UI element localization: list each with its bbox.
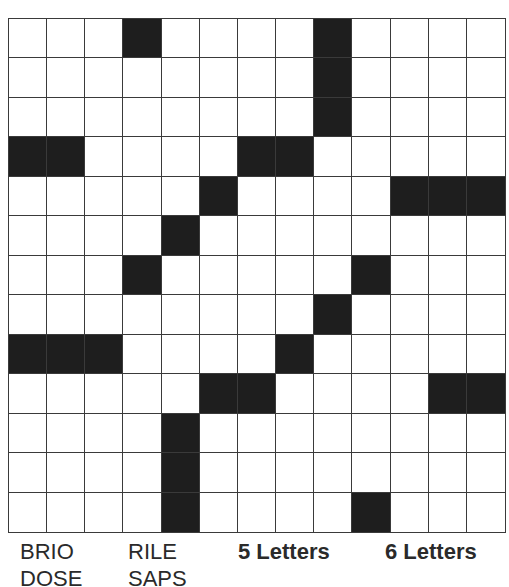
grid-cell[interactable] <box>467 58 505 97</box>
grid-cell[interactable] <box>9 58 47 97</box>
grid-cell[interactable] <box>352 216 390 255</box>
grid-cell[interactable] <box>162 58 200 97</box>
grid-cell[interactable] <box>123 58 161 97</box>
grid-cell[interactable] <box>85 19 123 58</box>
grid-cell[interactable] <box>352 58 390 97</box>
grid-cell[interactable] <box>314 453 352 492</box>
grid-cell[interactable] <box>352 374 390 413</box>
grid-cell[interactable] <box>276 295 314 334</box>
grid-cell[interactable] <box>47 98 85 137</box>
grid-cell[interactable] <box>238 453 276 492</box>
grid-cell[interactable] <box>238 19 276 58</box>
grid-cell[interactable] <box>391 58 429 97</box>
grid-cell[interactable] <box>85 414 123 453</box>
grid-cell[interactable] <box>85 177 123 216</box>
grid-cell[interactable] <box>352 98 390 137</box>
grid-cell[interactable] <box>276 177 314 216</box>
grid-cell[interactable] <box>162 335 200 374</box>
grid-cell[interactable] <box>276 493 314 532</box>
grid-cell[interactable] <box>352 137 390 176</box>
grid-cell[interactable] <box>467 19 505 58</box>
grid-cell[interactable] <box>238 177 276 216</box>
grid-cell[interactable] <box>467 335 505 374</box>
grid-cell[interactable] <box>85 374 123 413</box>
grid-cell[interactable] <box>200 335 238 374</box>
grid-cell[interactable] <box>391 493 429 532</box>
grid-cell[interactable] <box>276 216 314 255</box>
grid-cell[interactable] <box>314 374 352 413</box>
grid-cell[interactable] <box>352 177 390 216</box>
grid-cell[interactable] <box>429 58 467 97</box>
grid-cell[interactable] <box>123 137 161 176</box>
grid-cell[interactable] <box>276 98 314 137</box>
grid-cell[interactable] <box>391 335 429 374</box>
grid-cell[interactable] <box>85 98 123 137</box>
grid-cell[interactable] <box>391 374 429 413</box>
grid-cell[interactable] <box>429 19 467 58</box>
grid-cell[interactable] <box>352 335 390 374</box>
grid-cell[interactable] <box>162 295 200 334</box>
grid-cell[interactable] <box>429 453 467 492</box>
grid-cell[interactable] <box>238 493 276 532</box>
grid-cell[interactable] <box>9 98 47 137</box>
grid-cell[interactable] <box>123 414 161 453</box>
grid-cell[interactable] <box>9 216 47 255</box>
grid-cell[interactable] <box>123 335 161 374</box>
grid-cell[interactable] <box>47 295 85 334</box>
grid-cell[interactable] <box>352 19 390 58</box>
grid-cell[interactable] <box>314 335 352 374</box>
grid-cell[interactable] <box>429 295 467 334</box>
grid-cell[interactable] <box>238 98 276 137</box>
grid-cell[interactable] <box>123 374 161 413</box>
grid-cell[interactable] <box>429 256 467 295</box>
grid-cell[interactable] <box>123 177 161 216</box>
grid-cell[interactable] <box>200 216 238 255</box>
grid-cell[interactable] <box>85 493 123 532</box>
grid-cell[interactable] <box>467 493 505 532</box>
grid-cell[interactable] <box>467 256 505 295</box>
grid-cell[interactable] <box>123 98 161 137</box>
grid-cell[interactable] <box>9 177 47 216</box>
grid-cell[interactable] <box>391 256 429 295</box>
grid-cell[interactable] <box>391 98 429 137</box>
grid-cell[interactable] <box>85 295 123 334</box>
grid-cell[interactable] <box>276 453 314 492</box>
grid-cell[interactable] <box>85 256 123 295</box>
grid-cell[interactable] <box>238 414 276 453</box>
grid-cell[interactable] <box>47 216 85 255</box>
grid-cell[interactable] <box>200 19 238 58</box>
grid-cell[interactable] <box>200 256 238 295</box>
grid-cell[interactable] <box>9 19 47 58</box>
grid-cell[interactable] <box>47 493 85 532</box>
grid-cell[interactable] <box>123 295 161 334</box>
grid-cell[interactable] <box>162 98 200 137</box>
grid-cell[interactable] <box>85 216 123 255</box>
grid-cell[interactable] <box>276 58 314 97</box>
grid-cell[interactable] <box>276 414 314 453</box>
grid-cell[interactable] <box>200 493 238 532</box>
grid-cell[interactable] <box>9 256 47 295</box>
grid-cell[interactable] <box>314 414 352 453</box>
grid-cell[interactable] <box>162 177 200 216</box>
grid-cell[interactable] <box>47 374 85 413</box>
grid-cell[interactable] <box>47 177 85 216</box>
grid-cell[interactable] <box>47 414 85 453</box>
grid-cell[interactable] <box>429 216 467 255</box>
grid-cell[interactable] <box>429 98 467 137</box>
grid-cell[interactable] <box>391 19 429 58</box>
grid-cell[interactable] <box>391 295 429 334</box>
grid-cell[interactable] <box>47 58 85 97</box>
grid-cell[interactable] <box>352 453 390 492</box>
grid-cell[interactable] <box>238 256 276 295</box>
grid-cell[interactable] <box>238 295 276 334</box>
grid-cell[interactable] <box>200 414 238 453</box>
grid-cell[interactable] <box>314 177 352 216</box>
grid-cell[interactable] <box>9 295 47 334</box>
grid-cell[interactable] <box>200 295 238 334</box>
grid-cell[interactable] <box>467 98 505 137</box>
grid-cell[interactable] <box>314 137 352 176</box>
grid-cell[interactable] <box>47 453 85 492</box>
grid-cell[interactable] <box>429 137 467 176</box>
grid-cell[interactable] <box>200 137 238 176</box>
grid-cell[interactable] <box>162 137 200 176</box>
